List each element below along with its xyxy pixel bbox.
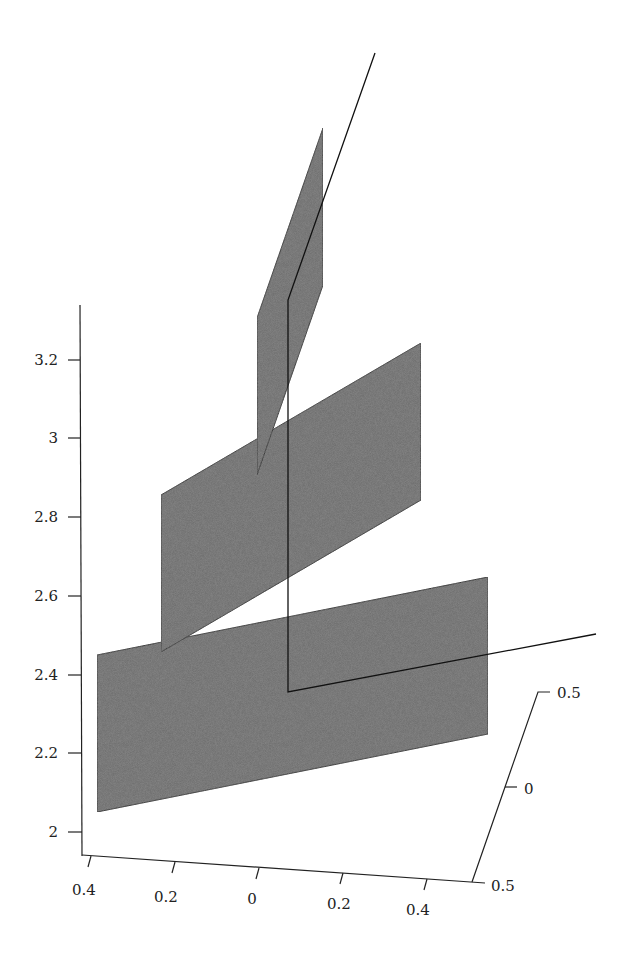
- x-tick-label: 0.4: [72, 881, 96, 899]
- y-tick-label: 0.5: [557, 684, 581, 702]
- planes: [97, 128, 488, 812]
- z-tick-label: 3: [48, 429, 58, 447]
- z-tick-label: 2.4: [34, 666, 58, 684]
- x-tick-label: 0.2: [327, 895, 351, 913]
- y-tick-label: 0.5: [491, 877, 515, 895]
- chart-canvas: 3.2 3 2.8 2.6 2.4 2.2 2 0.4 0.2 0 0.2 0.…: [0, 0, 625, 961]
- z-axis: 3.2 3 2.8 2.6 2.4 2.2 2: [34, 305, 82, 856]
- bottom-plane: [97, 577, 488, 812]
- z-tick-label: 2.8: [34, 508, 58, 526]
- x-tick-label: 0.2: [154, 888, 178, 906]
- z-tick-label: 2: [48, 823, 58, 841]
- x-axis: 0.4 0.2 0 0.2 0.4: [72, 855, 485, 919]
- x-axis-ticks: [88, 856, 427, 890]
- x-tick-label: 0: [247, 890, 257, 908]
- z-axis-line: [80, 305, 82, 856]
- x-axis-line: [82, 855, 485, 883]
- y-tick-label: 0: [524, 780, 534, 798]
- z-tick-label: 2.2: [34, 744, 58, 762]
- z-tick-label: 2.6: [34, 587, 58, 605]
- x-tick-label: 0.4: [406, 901, 430, 919]
- z-tick-label: 3.2: [34, 351, 58, 369]
